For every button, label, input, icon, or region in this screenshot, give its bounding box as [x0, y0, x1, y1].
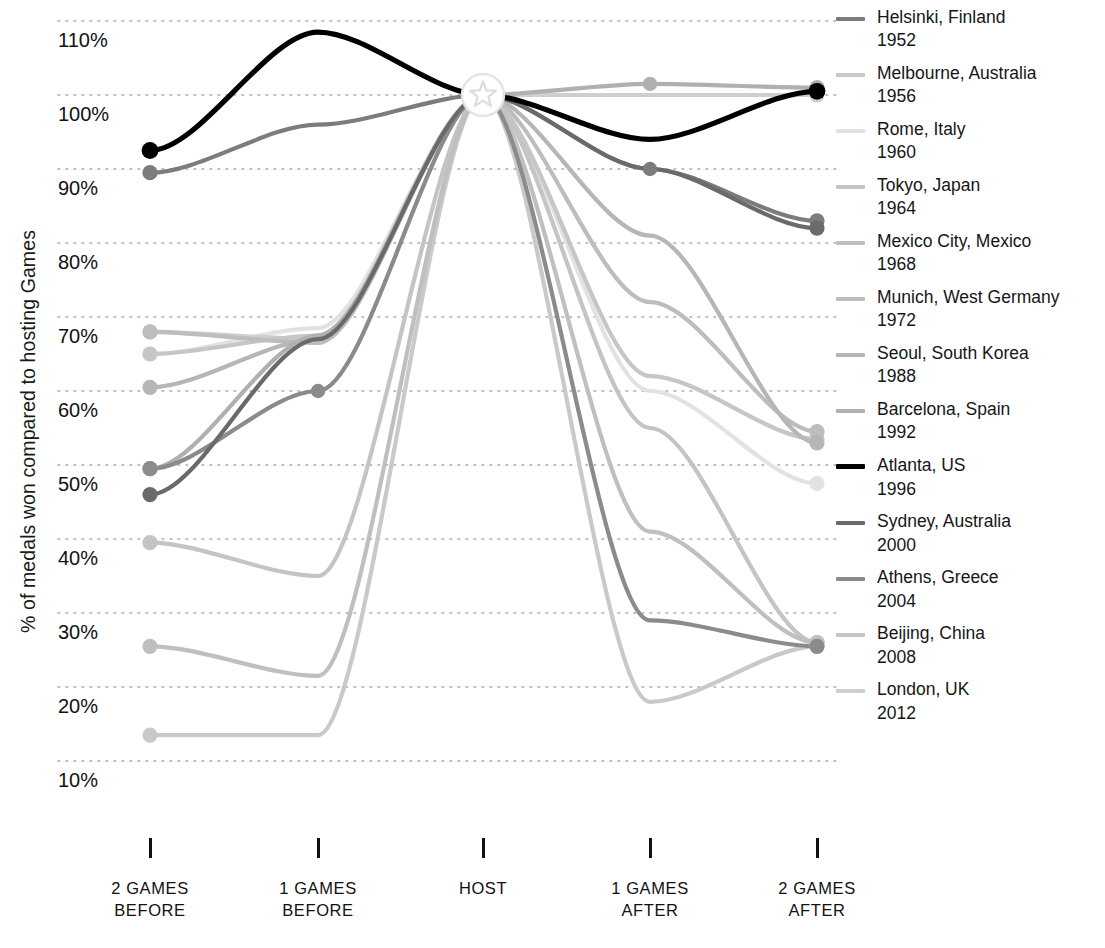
legend-item[interactable]: Helsinki, Finland1952 — [836, 6, 1104, 53]
legend-swatch-icon — [836, 521, 865, 525]
series-line[interactable] — [150, 95, 817, 495]
legend-city: Athens, Greece — [877, 567, 999, 587]
legend-label: Melbourne, Australia1956 — [877, 62, 1037, 109]
legend-item[interactable]: Sydney, Australia2000 — [836, 510, 1104, 557]
legend-year: 1960 — [877, 141, 966, 164]
x-tick-label: 2 GAMESBEFORE — [60, 878, 240, 922]
legend-swatch-icon — [836, 17, 865, 21]
series-endpoint-dot[interactable] — [142, 487, 157, 502]
legend-city: Munich, West Germany — [877, 287, 1060, 307]
series-endpoint-dot[interactable] — [809, 221, 824, 236]
legend-city: Barcelona, Spain — [877, 399, 1010, 419]
legend-swatch-icon — [836, 73, 865, 77]
x-tick-label-line1: 2 GAMES — [727, 878, 907, 900]
legend-item[interactable]: Athens, Greece2004 — [836, 566, 1104, 613]
legend-label: Munich, West Germany1972 — [877, 286, 1060, 333]
x-tick-label: 1 GAMESAFTER — [560, 878, 740, 922]
x-tick-label-line1: 1 GAMES — [560, 878, 740, 900]
legend-label: Seoul, South Korea1988 — [877, 342, 1029, 389]
series-endpoint-dot[interactable] — [142, 346, 157, 361]
series-endpoint-dot[interactable] — [142, 324, 157, 339]
x-tick-mark — [816, 838, 819, 858]
series-line[interactable] — [150, 95, 817, 439]
series-endpoint-dot[interactable] — [311, 384, 325, 398]
y-tick-label: 80% — [58, 252, 144, 272]
chart-root: % of medals won compared to hosting Game… — [0, 0, 1105, 948]
series-endpoint-dot[interactable] — [142, 380, 157, 395]
legend-label: London, UK2012 — [877, 678, 969, 725]
legend-swatch-icon — [836, 689, 865, 693]
series-endpoint-dot[interactable] — [643, 162, 657, 176]
legend-item[interactable]: London, UK2012 — [836, 678, 1104, 725]
y-tick-label: 90% — [58, 178, 144, 198]
series-dots — [142, 77, 826, 743]
x-tick-mark — [482, 838, 485, 858]
x-tick-label-line2: BEFORE — [60, 900, 240, 922]
legend-item[interactable]: Mexico City, Mexico1968 — [836, 230, 1104, 277]
series-endpoint-dot[interactable] — [142, 165, 157, 180]
legend: Helsinki, Finland1952Melbourne, Australi… — [836, 6, 1104, 734]
legend-label: Athens, Greece2004 — [877, 566, 999, 613]
y-tick-label: 70% — [58, 326, 144, 346]
series-endpoint-dot[interactable] — [643, 77, 657, 91]
legend-swatch-icon — [836, 241, 865, 245]
legend-label: Atlanta, US1996 — [877, 454, 966, 501]
y-tick-label: 20% — [58, 696, 144, 716]
y-tick-label: 60% — [58, 400, 144, 420]
legend-city: Sydney, Australia — [877, 511, 1011, 531]
legend-city: Tokyo, Japan — [877, 175, 980, 195]
legend-swatch-icon — [836, 409, 865, 413]
x-tick-label-line2: AFTER — [727, 900, 907, 922]
legend-city: Rome, Italy — [877, 119, 966, 139]
legend-item[interactable]: Seoul, South Korea1988 — [836, 342, 1104, 389]
series-endpoint-dot[interactable] — [809, 476, 824, 491]
legend-item[interactable]: Barcelona, Spain1992 — [836, 398, 1104, 445]
series-endpoint-dot[interactable] — [142, 461, 157, 476]
series-line[interactable] — [150, 95, 817, 339]
legend-year: 1996 — [877, 478, 966, 501]
x-tick-label-line2: BEFORE — [228, 900, 408, 922]
legend-city: Atlanta, US — [877, 455, 966, 475]
legend-year: 1992 — [877, 421, 1010, 444]
x-tick-label-line1: HOST — [393, 878, 573, 900]
x-tick-label: 2 GAMESAFTER — [727, 878, 907, 922]
legend-year: 1964 — [877, 197, 980, 220]
legend-item[interactable]: Tokyo, Japan1964 — [836, 174, 1104, 221]
legend-swatch-icon — [836, 185, 865, 189]
legend-item[interactable]: Atlanta, US1996 — [836, 454, 1104, 501]
x-tick-mark — [149, 838, 152, 858]
legend-city: Mexico City, Mexico — [877, 231, 1031, 251]
series-endpoint-dot[interactable] — [142, 535, 157, 550]
legend-city: Helsinki, Finland — [877, 7, 1005, 27]
y-tick-label: 10% — [58, 770, 144, 790]
legend-item[interactable]: Melbourne, Australia1956 — [836, 62, 1104, 109]
legend-year: 2000 — [877, 534, 1011, 557]
legend-label: Rome, Italy1960 — [877, 118, 966, 165]
series-line[interactable] — [150, 95, 817, 643]
y-tick-label: 50% — [58, 474, 144, 494]
series-endpoint-dot[interactable] — [142, 728, 157, 743]
legend-item[interactable]: Rome, Italy1960 — [836, 118, 1104, 165]
legend-item[interactable]: Munich, West Germany1972 — [836, 286, 1104, 333]
legend-swatch-icon — [836, 577, 865, 581]
legend-city: London, UK — [877, 679, 969, 699]
y-tick-label: 40% — [58, 548, 144, 568]
legend-year: 1972 — [877, 309, 1060, 332]
legend-year: 1956 — [877, 85, 1037, 108]
legend-year: 1952 — [877, 29, 1005, 52]
plot-area: 110%100%90%80%70%60%50%40%30%20%10% 2 GA… — [0, 0, 880, 835]
legend-city: Seoul, South Korea — [877, 343, 1029, 363]
series-line[interactable] — [150, 95, 817, 484]
legend-item[interactable]: Beijing, China2008 — [836, 622, 1104, 669]
legend-city: Beijing, China — [877, 623, 985, 643]
x-tick-label-line1: 1 GAMES — [228, 878, 408, 900]
legend-swatch-icon — [836, 464, 865, 469]
series-endpoint-dot[interactable] — [809, 83, 826, 100]
series-endpoint-dot[interactable] — [809, 639, 824, 654]
x-tick-mark — [317, 838, 320, 858]
legend-label: Sydney, Australia2000 — [877, 510, 1011, 557]
series-endpoint-dot[interactable] — [142, 142, 159, 159]
series-endpoint-dot[interactable] — [142, 639, 157, 654]
x-tick-label: 1 GAMESBEFORE — [228, 878, 408, 922]
series-endpoint-dot[interactable] — [809, 435, 824, 450]
